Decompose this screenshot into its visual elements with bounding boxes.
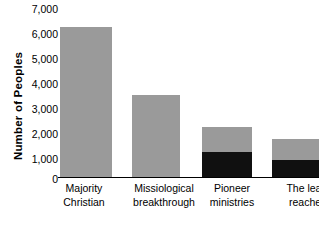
- category-label-line: reached: [262, 196, 319, 210]
- y-tick-label: 7,000: [14, 4, 58, 14]
- category-label: MajorityChristian: [46, 182, 122, 209]
- y-tick-label: 5,000: [14, 54, 58, 64]
- bar-chart: Number of Peoples 7,0006,0005,0004,0003,…: [0, 0, 319, 225]
- category-label-line: ministries: [192, 196, 272, 210]
- bar-segment-upper: [272, 139, 319, 160]
- bar: [272, 139, 319, 177]
- x-axis-category-labels: MajorityChristianMissiologicalbreakthrou…: [58, 182, 319, 225]
- category-label: Pioneerministries: [192, 182, 272, 209]
- y-axis-tick-labels: 7,0006,0005,0004,0003,0002,0001,0000: [12, 0, 58, 200]
- bar: [132, 95, 180, 178]
- y-tick-label: 3,000: [14, 104, 58, 114]
- plot-area: [58, 0, 319, 178]
- y-tick-label: 1,000: [14, 154, 58, 164]
- y-tick-label: 2,000: [14, 129, 58, 139]
- category-label: The leastreached: [262, 182, 319, 209]
- bar: [202, 127, 252, 177]
- category-label-line: Majority: [46, 182, 122, 196]
- bar-segment-upper: [132, 95, 180, 178]
- bar-segment-lower: [202, 152, 252, 177]
- y-tick-label: 4,000: [14, 79, 58, 89]
- bar-segment-upper: [202, 127, 252, 152]
- category-label-line: Pioneer: [192, 182, 272, 196]
- category-label-line: The least: [262, 182, 319, 196]
- bar: [60, 27, 112, 177]
- bar-segment-upper: [60, 27, 112, 177]
- y-tick-label: 6,000: [14, 29, 58, 39]
- x-axis-line: [58, 177, 319, 178]
- bar-segment-lower: [272, 160, 319, 178]
- category-label-line: Christian: [46, 196, 122, 210]
